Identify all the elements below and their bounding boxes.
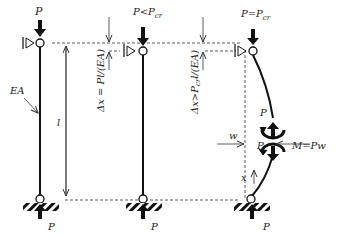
deflection-label: w: [229, 130, 238, 141]
stiffness-label: EA: [9, 85, 25, 96]
section-force-upper-arrow-icon: [267, 122, 279, 137]
roller-support-icon: [23, 37, 34, 49]
moment-label: M=Pw: [291, 140, 326, 151]
column-2: Δx = Pl/(EA) P<Pcr P: [95, 6, 163, 232]
top-load-label: P<Pcr: [132, 6, 163, 20]
shortening-label: Δx>Pcrl/(EA): [189, 50, 202, 115]
section-force-lower-label: P: [256, 140, 264, 151]
column-3: Δx>Pcrl/(EA) P=Pcr P M=Pw: [189, 8, 326, 232]
top-load-label: P: [34, 5, 43, 18]
bottom-reaction-label: P: [150, 221, 158, 232]
bottom-hinge-icon: [139, 195, 147, 203]
bottom-hinge-icon: [247, 195, 255, 203]
section-force-lower-arrow-icon: [267, 146, 279, 161]
load-arrow-icon: [247, 29, 259, 45]
bottom-hinge-icon: [36, 195, 44, 203]
bottom-reaction-label: P: [262, 221, 270, 232]
bottom-reaction-label: P: [47, 221, 55, 232]
section-force-upper-label: P: [259, 107, 267, 118]
buckled-column-lower: [252, 155, 273, 196]
reference-lines: [52, 43, 245, 200]
coordinate-label: x: [241, 172, 247, 183]
shortening-label: Δx = Pl/(EA): [95, 49, 106, 113]
column-1: P EA l P: [9, 5, 66, 232]
stiffness-leader: [24, 98, 38, 113]
length-label: l: [57, 117, 60, 128]
top-hinge-icon: [36, 39, 44, 47]
load-arrow-icon: [34, 20, 46, 37]
top-hinge-icon: [139, 47, 147, 55]
buckling-diagram: P EA l P Δx = Pl/(EA) P<Pcr: [0, 0, 337, 239]
top-load-label: P=Pcr: [240, 8, 271, 22]
top-hinge-icon: [249, 47, 257, 55]
roller-support-icon: [235, 44, 246, 57]
roller-support-icon: [124, 44, 135, 57]
